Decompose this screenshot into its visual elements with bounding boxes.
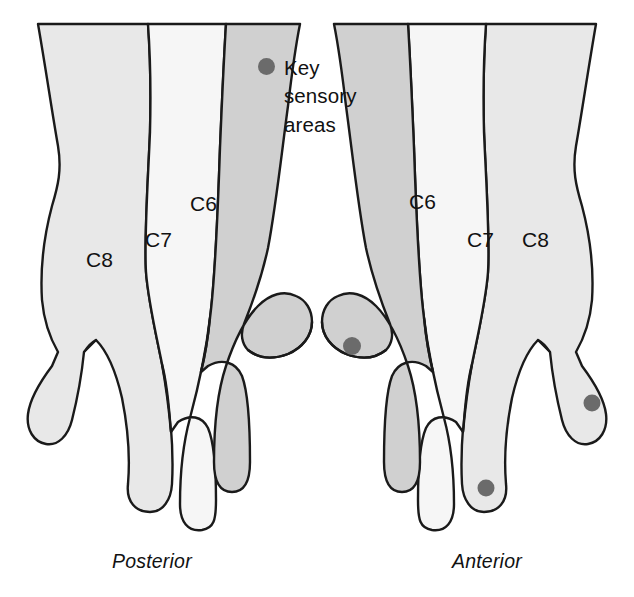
- dermatome-label-posterior-c6: C6: [190, 192, 217, 216]
- caption-anterior: Anterior: [452, 550, 522, 573]
- dermatome-figure: Key sensory areas C8 C7 C6 C6 C7 C8 Post…: [0, 0, 634, 597]
- legend-label-line3: areas: [284, 111, 380, 139]
- dermatome-label-posterior-c7: C7: [145, 228, 172, 252]
- dermatome-label-anterior-c6: C6: [409, 190, 436, 214]
- key-sensory-dot-thumb-c6: [343, 337, 361, 355]
- dermatome-label-anterior-c7: C7: [467, 228, 494, 252]
- dermatome-label-posterior-c8: C8: [86, 248, 113, 272]
- legend-label-line2: sensory: [284, 82, 380, 110]
- dermatome-label-anterior-c8: C8: [522, 228, 549, 252]
- key-sensory-dot-little-finger-c8: [584, 395, 601, 412]
- key-sensory-dot-middle-finger-c7: [478, 480, 495, 497]
- legend-label: Key sensory areas: [284, 54, 380, 139]
- caption-posterior: Posterior: [112, 550, 192, 573]
- legend-label-line1: Key: [284, 54, 380, 82]
- key-sensory-dot-icon: [258, 58, 275, 75]
- legend: Key sensory areas: [258, 54, 380, 139]
